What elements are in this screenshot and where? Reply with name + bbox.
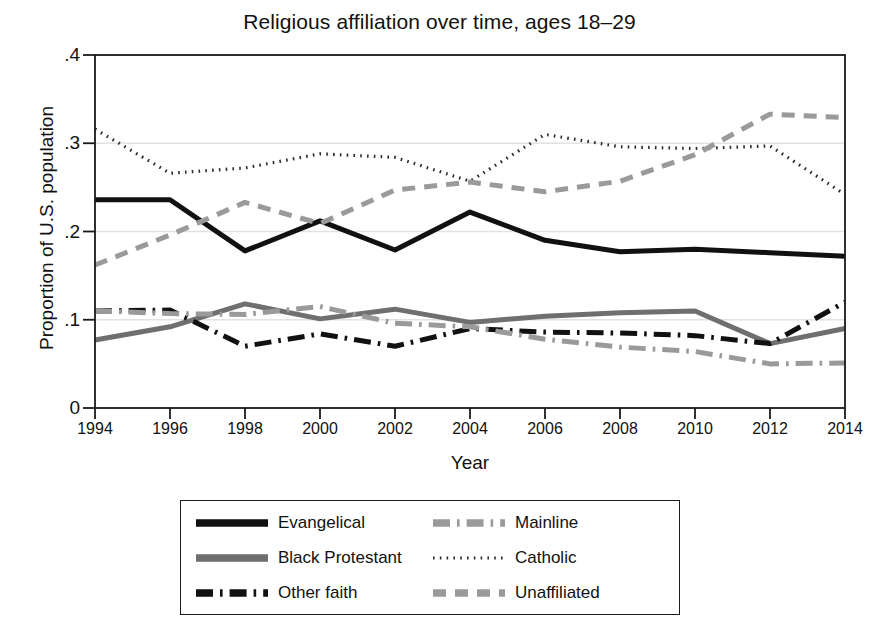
legend-swatch-evangelical [195,516,269,530]
legend-item-black-protestant[interactable]: Black Protestant [195,548,432,568]
legend-label: Evangelical [278,513,365,533]
legend-swatch-other-faith [195,586,269,600]
legend-item-other-faith[interactable]: Other faith [195,583,432,603]
legend-label: Catholic [515,548,576,568]
chart-figure: Religious affiliation over time, ages 18… [0,0,879,643]
legend-label: Unaffiliated [515,583,600,603]
legend-label: Other faith [278,583,357,603]
legend-label: Black Protestant [278,548,402,568]
legend-label: Mainline [515,513,578,533]
legend-item-evangelical[interactable]: Evangelical [195,513,432,533]
legend-swatch-unaffiliated [432,586,506,600]
legend-swatch-mainline [432,516,506,530]
legend-item-mainline[interactable]: Mainline [432,513,669,533]
legend-swatch-catholic [432,551,506,565]
legend-item-catholic[interactable]: Catholic [432,548,669,568]
chart-legend: EvangelicalMainlineBlack ProtestantCatho… [180,500,680,615]
legend-item-unaffiliated[interactable]: Unaffiliated [432,583,669,603]
legend-swatch-black-protestant [195,551,269,565]
